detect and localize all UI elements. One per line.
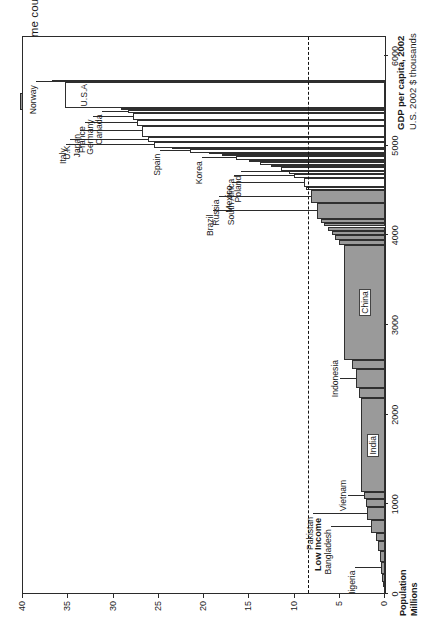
x-tick-mark bbox=[384, 414, 388, 415]
x-axis-title: Population Millions bbox=[398, 570, 419, 617]
bar-other-mid-f bbox=[321, 219, 385, 223]
bar-other-mid-b bbox=[335, 235, 385, 240]
bar-u-k- bbox=[148, 137, 385, 142]
bar-other-low-d bbox=[376, 533, 385, 542]
bar-u-s-a bbox=[65, 82, 385, 108]
bar-france bbox=[137, 120, 385, 125]
bar-poland bbox=[289, 171, 385, 174]
leader-line-norway bbox=[36, 81, 52, 82]
x-tick-label: 2000 bbox=[390, 405, 400, 425]
bar-norway bbox=[52, 80, 385, 82]
plot-area: Low IncomeNigeriaBangladeshPakistanVietn… bbox=[22, 36, 386, 594]
bar-nigeria bbox=[381, 562, 385, 574]
bar-germany bbox=[133, 113, 385, 120]
y-tick-mark bbox=[158, 594, 159, 598]
y-tick-mark bbox=[113, 594, 114, 598]
bar-other-mid-d bbox=[328, 227, 385, 231]
leader-line-vietnam bbox=[348, 495, 364, 496]
y-tick-label: 15 bbox=[243, 601, 253, 611]
bar-other-low-b bbox=[380, 551, 385, 562]
x-axis-title-sub: Millions bbox=[409, 570, 420, 617]
y-tick-mark bbox=[294, 594, 295, 598]
rotated-figure-stage: Low-income countries GDP per capita, 200… bbox=[0, 0, 434, 630]
x-tick-mark bbox=[384, 324, 388, 325]
x-tick-label: 1000 bbox=[390, 494, 400, 514]
x-tick-mark bbox=[384, 145, 388, 146]
y-tick-mark bbox=[339, 594, 340, 598]
callout-label-u-k-: U.K. bbox=[62, 143, 72, 160]
leader-line-nigeria bbox=[355, 567, 381, 568]
bar-indonesia bbox=[356, 369, 385, 388]
y-tick-mark bbox=[203, 594, 204, 598]
bar-other-upper-d bbox=[249, 160, 385, 162]
leader-line-pakistan bbox=[313, 513, 367, 514]
bar-vietnam bbox=[364, 492, 385, 499]
bar-other-low-e bbox=[366, 499, 385, 507]
leader-line-spain bbox=[160, 150, 190, 151]
bar-ethiopia bbox=[384, 587, 386, 593]
bar-other-low-a bbox=[382, 574, 385, 583]
bar-other-upper-e bbox=[222, 154, 385, 156]
x-tick-label: 6000 bbox=[390, 46, 400, 66]
callout-label-russia: Russia bbox=[211, 200, 221, 226]
y-tick-label: 35 bbox=[62, 601, 72, 611]
bar-brazil bbox=[317, 203, 385, 219]
y-axis-title-sub: U.S. 2002 $ thousands bbox=[407, 33, 419, 130]
bar-other-low-g bbox=[352, 360, 385, 369]
leader-line-korea bbox=[202, 157, 236, 158]
bar-italy bbox=[154, 142, 385, 147]
data-label-china: China bbox=[359, 289, 371, 315]
y-tick-mark bbox=[248, 594, 249, 598]
y-tick-label: 0 bbox=[379, 601, 389, 606]
bar-spain bbox=[190, 149, 385, 153]
low-income-threshold-line bbox=[308, 37, 309, 593]
callout-label-pakistan: Pakistan bbox=[305, 517, 315, 550]
bar-bangladesh bbox=[371, 520, 385, 532]
bar-other-mid-a bbox=[339, 240, 385, 245]
bar-other-low-c bbox=[378, 541, 385, 551]
data-label-indonesia: Indonesia bbox=[330, 360, 340, 397]
bar-mexico bbox=[304, 178, 385, 187]
bar-russia bbox=[311, 190, 385, 203]
data-label-vietnam: Vietnam bbox=[338, 480, 348, 511]
x-tick-label: 5000 bbox=[390, 136, 400, 156]
y-tick-mark bbox=[67, 594, 68, 598]
callout-label-norway: Norway bbox=[28, 85, 38, 114]
bar-japan bbox=[142, 126, 385, 137]
x-tick-label: 0 bbox=[390, 591, 400, 596]
bar-other-mid-c bbox=[332, 231, 385, 235]
leader-line-bangladesh bbox=[331, 526, 371, 527]
y-tick-mark bbox=[384, 594, 385, 598]
bar-other-high-a bbox=[121, 108, 385, 110]
x-tick-mark bbox=[384, 234, 388, 235]
bar-other-mid-e bbox=[324, 223, 385, 227]
leader-line-canada bbox=[102, 111, 128, 112]
x-tick-label: 3000 bbox=[390, 315, 400, 335]
y-tick-label: 40 bbox=[17, 601, 27, 611]
bar-canada bbox=[128, 110, 385, 113]
data-label-u-s-a: U.S.A bbox=[79, 84, 89, 106]
y-tick-label: 25 bbox=[153, 601, 163, 611]
callout-label-bangladesh: Bangladesh bbox=[323, 529, 333, 574]
bar-other-mid-g bbox=[306, 187, 385, 190]
callout-label-poland: Poland bbox=[233, 176, 243, 203]
y-tick-label: 10 bbox=[289, 601, 299, 611]
data-label-india: India bbox=[367, 434, 379, 457]
x-tick-mark bbox=[384, 55, 388, 56]
bar-pakistan bbox=[367, 507, 385, 520]
bar-korea bbox=[236, 156, 385, 160]
bar-congo-dr bbox=[383, 582, 385, 587]
leader-line-indonesia bbox=[340, 378, 356, 379]
bar-other-upper-c bbox=[260, 162, 385, 164]
callout-label-spain: Spain bbox=[152, 154, 162, 176]
y-tick-label: 30 bbox=[108, 601, 118, 611]
callout-label-nigeria: Nigeria bbox=[347, 571, 357, 594]
y-tick-mark bbox=[22, 594, 23, 598]
leader-line-poland bbox=[241, 171, 289, 172]
bar-other-upper-a bbox=[281, 167, 385, 170]
bar-other-low-f bbox=[359, 388, 385, 398]
callout-label-canada: Canada bbox=[94, 115, 104, 145]
y-tick-label: 20 bbox=[198, 601, 208, 611]
y-tick-label: 5 bbox=[334, 601, 344, 606]
x-tick-label: 4000 bbox=[390, 225, 400, 245]
